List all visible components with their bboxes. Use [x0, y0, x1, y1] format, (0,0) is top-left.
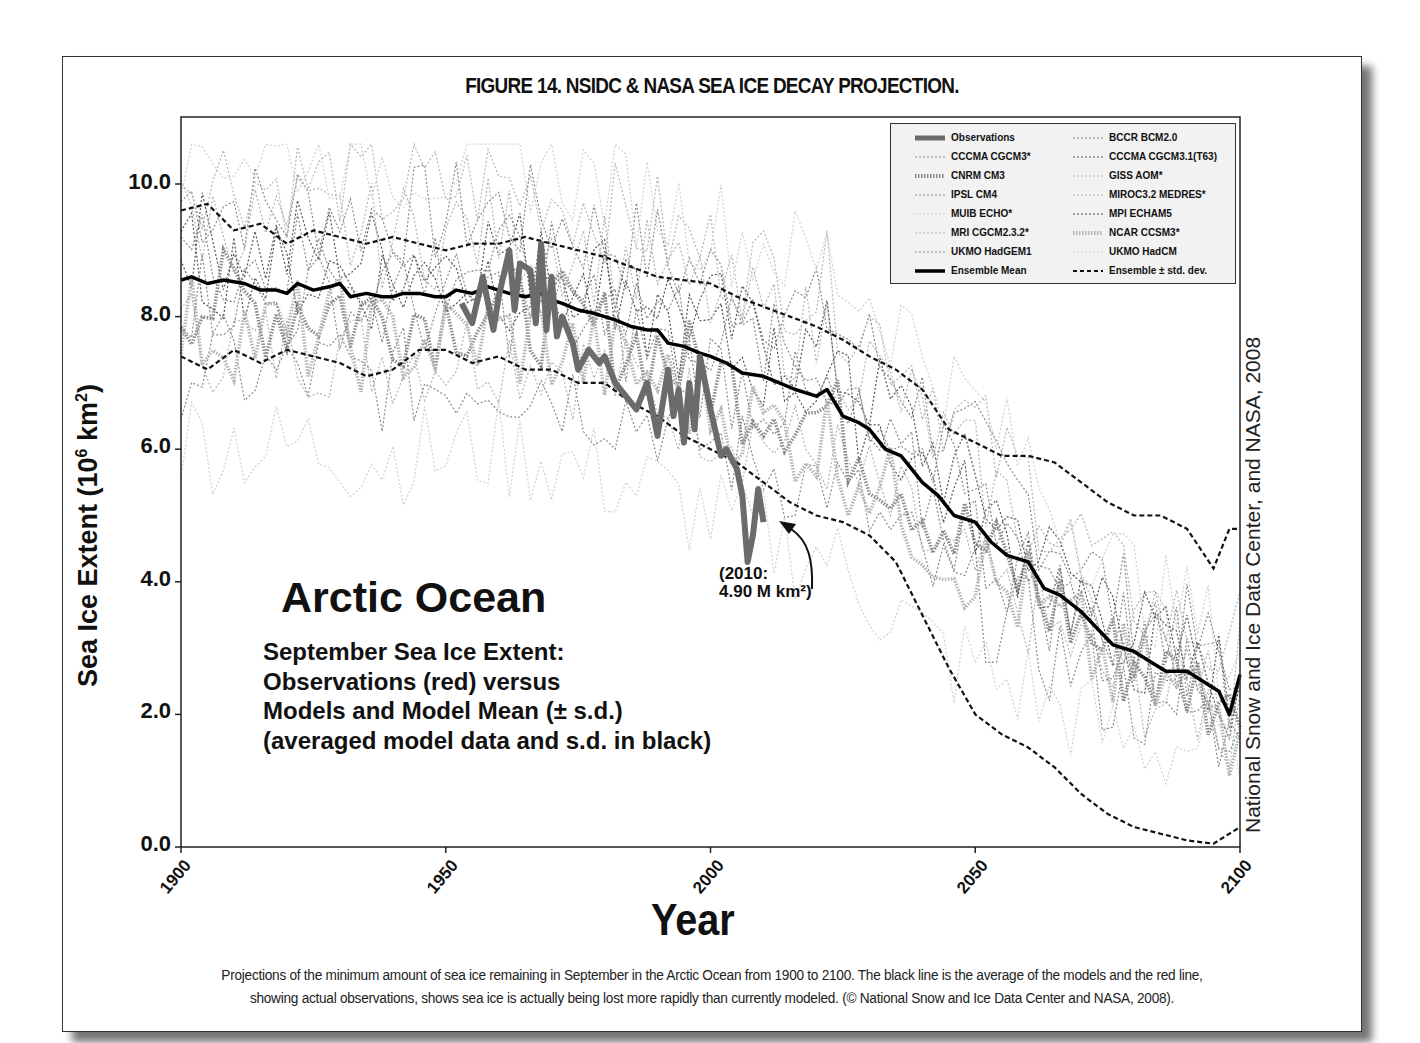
legend-item: Ensemble Mean [895, 261, 1063, 280]
legend-swatch-icon [1073, 228, 1103, 238]
description-line: September Sea Ice Extent: [263, 637, 711, 667]
y-tick-label: 2.0 [111, 698, 171, 724]
legend-label: GISS AOM* [1109, 170, 1163, 181]
y-tick-label: 6.0 [111, 433, 171, 459]
legend-swatch-icon [915, 171, 945, 181]
legend-swatch-icon [1073, 152, 1103, 162]
legend-swatch-icon [915, 152, 945, 162]
legend-label: NCAR CCSM3* [1109, 227, 1180, 238]
chart-legend: ObservationsBCCR BCM2.0CCCMA CGCM3*CCCMA… [890, 123, 1236, 284]
description-line: (averaged model data and s.d. in black) [263, 726, 711, 756]
legend-item: Ensemble ± std. dev. [1063, 261, 1231, 280]
callout-line: 4.90 M km²) [719, 583, 812, 601]
legend-swatch-icon [1073, 209, 1103, 219]
legend-item: UKMO HadCM [1063, 242, 1231, 261]
y-tick-label: 4.0 [111, 566, 171, 592]
legend-swatch-icon [1073, 247, 1103, 257]
legend-swatch-icon [915, 247, 945, 257]
legend-label: CNRM CM3 [951, 170, 1005, 181]
legend-item: MPI ECHAM5 [1063, 204, 1231, 223]
legend-item: Observations [895, 128, 1063, 147]
callout-2010: (2010: 4.90 M km²) [719, 565, 812, 601]
description-line: Models and Model Mean (± s.d.) [263, 696, 711, 726]
chart-description: September Sea Ice Extent: Observations (… [263, 637, 711, 755]
legend-label: UKMO HadGEM1 [951, 246, 1032, 257]
legend-label: BCCR BCM2.0 [1109, 132, 1177, 143]
credit-text: National Snow and Ice Data Center, and N… [1241, 337, 1265, 833]
legend-item: CCCMA CGCM3.1(T63) [1063, 147, 1231, 166]
caption-line: showing actual observations, shows sea i… [141, 986, 1283, 1009]
region-title: Arctic Ocean [281, 573, 546, 622]
legend-swatch-icon [1073, 133, 1103, 143]
legend-item: MRI CGCM2.3.2* [895, 223, 1063, 242]
legend-label: Ensemble ± std. dev. [1109, 265, 1207, 276]
caption-line: Projections of the minimum amount of sea… [141, 963, 1283, 986]
legend-item: BCCR BCM2.0 [1063, 128, 1231, 147]
legend-item: CNRM CM3 [895, 166, 1063, 185]
legend-label: IPSL CM4 [951, 189, 997, 200]
figure-frame: FIGURE 14. NSIDC & NASA SEA ICE DECAY PR… [62, 56, 1362, 1032]
legend-label: MIROC3.2 MEDRES* [1109, 189, 1206, 200]
legend-label: MRI CGCM2.3.2* [951, 227, 1029, 238]
legend-label: Ensemble Mean [951, 265, 1027, 276]
legend-swatch-icon [915, 209, 945, 219]
legend-swatch-icon [915, 190, 945, 200]
x-axis-label: Year [651, 895, 735, 945]
figure-caption: Projections of the minimum amount of sea… [63, 963, 1361, 1009]
legend-label: MPI ECHAM5 [1109, 208, 1172, 219]
legend-item: NCAR CCSM3* [1063, 223, 1231, 242]
legend-label: CCCMA CGCM3.1(T63) [1109, 151, 1217, 162]
legend-item: UKMO HadGEM1 [895, 242, 1063, 261]
legend-swatch-icon [915, 228, 945, 238]
legend-label: UKMO HadCM [1109, 246, 1177, 257]
y-tick-label: 8.0 [111, 301, 171, 327]
legend-label: CCCMA CGCM3* [951, 151, 1031, 162]
legend-swatch-icon [1073, 190, 1103, 200]
legend-swatch-icon [1073, 171, 1103, 181]
legend-item: CCCMA CGCM3* [895, 147, 1063, 166]
legend-swatch-icon [1073, 266, 1103, 276]
legend-label: Observations [951, 132, 1015, 143]
legend-item: GISS AOM* [1063, 166, 1231, 185]
legend-item: IPSL CM4 [895, 185, 1063, 204]
legend-item: MUIB ECHO* [895, 204, 1063, 223]
description-line: Observations (red) versus [263, 667, 711, 697]
legend-swatch-icon [915, 133, 945, 143]
legend-label: MUIB ECHO* [951, 208, 1012, 219]
y-axis-label: Sea Ice Extent (106 km2) [73, 384, 104, 687]
legend-item: MIROC3.2 MEDRES* [1063, 185, 1231, 204]
y-tick-label: 10.0 [111, 169, 171, 195]
callout-line: (2010: [719, 565, 812, 583]
y-tick-label: 0.0 [111, 831, 171, 857]
legend-grid: ObservationsBCCR BCM2.0CCCMA CGCM3*CCCMA… [895, 128, 1231, 280]
legend-swatch-icon [915, 266, 945, 276]
